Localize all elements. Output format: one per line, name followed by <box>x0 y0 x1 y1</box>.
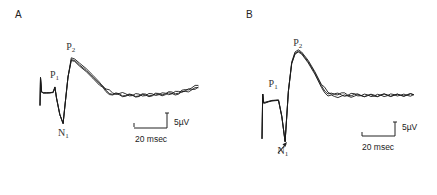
panel-b-scale-bar: 5µV 20 msec <box>362 122 418 152</box>
scale-bar-lines <box>362 122 397 136</box>
scale-bar-lines <box>134 113 169 128</box>
panel-b-traces <box>262 50 414 142</box>
scale-bar-time-label: 20 msec <box>135 134 168 144</box>
panel-b-peak-labels: P1N1P2 <box>269 37 303 157</box>
scale-bar-voltage-label: 5µV <box>174 117 190 127</box>
scale-bar-voltage-label: 5µV <box>402 122 418 132</box>
scale-bar-time-label: 20 msec <box>362 142 395 152</box>
panel-a: A P1N1P2 5µV 20 msec <box>15 9 198 144</box>
peak-label-p2: P2 <box>66 41 76 54</box>
peak-label-n1: N1 <box>58 127 69 140</box>
panel-b-trace-2 <box>262 50 414 142</box>
panel-a-scale-bar: 5µV 20 msec <box>134 113 190 144</box>
peak-label-p1: P1 <box>50 69 60 82</box>
peak-label-p1: P1 <box>269 78 279 91</box>
evoked-potential-figure: A P1N1P2 5µV 20 msec B P1N1P2 5µV 20 mse… <box>0 0 437 195</box>
panel-a-label: A <box>15 9 22 20</box>
peak-label-p2: P2 <box>293 37 303 50</box>
panel-b: B P1N1P2 5µV 20 msec <box>246 9 418 158</box>
panel-b-label: B <box>246 9 253 20</box>
panel-a-traces <box>40 58 198 124</box>
